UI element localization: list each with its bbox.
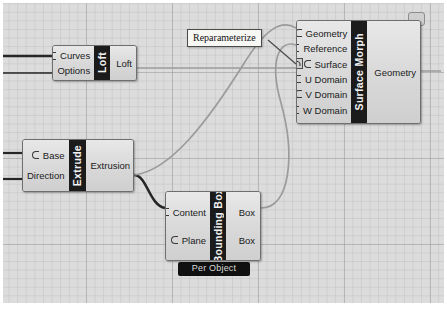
surface-morph-outputs: Geometry <box>367 21 420 123</box>
extrude-output-extrusion[interactable]: Extrusion <box>86 160 135 171</box>
sm-output-geometry[interactable]: Geometry <box>367 67 420 78</box>
port-in-w-domain[interactable] <box>296 106 299 114</box>
extrude-name-tag[interactable]: Extrude <box>69 140 86 191</box>
node-surface-morph[interactable]: Geometry Reference Surface U Domain <box>296 20 421 124</box>
extrude-outputs: Extrusion <box>86 140 135 191</box>
surface-morph-name-tag[interactable]: Surface Morph <box>351 21 367 123</box>
bounding-box-inputs: Content Plane <box>166 192 210 260</box>
bounding-box-outputs: Box Box <box>226 192 260 260</box>
reparameterize-icon[interactable] <box>296 58 303 69</box>
extrude-input-base[interactable]: Base <box>39 150 69 161</box>
grasshopper-canvas[interactable]: Curves Options Loft Loft Base <box>3 3 444 303</box>
port-in-options[interactable] <box>52 67 53 75</box>
sm-input-v-domain[interactable]: V Domain <box>302 89 352 100</box>
port-in-v-domain[interactable] <box>296 90 302 98</box>
screenshot-root: Curves Options Loft Loft Base <box>0 0 447 311</box>
port-in-u-domain[interactable] <box>296 75 301 83</box>
loft-name-tag[interactable]: Loft <box>94 46 110 80</box>
loft-output-loft[interactable]: Loft <box>110 58 136 69</box>
sm-input-reference[interactable]: Reference <box>299 43 351 54</box>
extrude-name-label: Extrude <box>71 145 83 186</box>
bbox-output-box-2[interactable]: Box <box>235 235 260 246</box>
sm-input-u-domain[interactable]: U Domain <box>301 74 351 85</box>
loft-name-label: Loft <box>96 52 108 73</box>
loft-input-options[interactable]: Options <box>53 65 94 76</box>
reparameterize-callout[interactable]: Reparameterize <box>187 29 262 47</box>
bounding-box-name-tag[interactable]: Bounding Box <box>210 192 226 260</box>
port-in-plane[interactable] <box>171 236 178 244</box>
sm-input-geometry[interactable]: Geometry <box>302 28 352 39</box>
port-in-base[interactable] <box>32 151 39 159</box>
bbox-input-content[interactable]: Content <box>169 207 210 218</box>
extrude-input-direction[interactable]: Direction <box>23 170 69 181</box>
port-in-content[interactable] <box>165 208 169 216</box>
loft-input-curves[interactable]: Curves <box>56 50 94 61</box>
loft-inputs: Curves Options <box>53 46 94 80</box>
surface-morph-name-label: Surface Morph <box>353 33 365 110</box>
sm-input-surface[interactable]: Surface <box>311 59 352 70</box>
port-in-surface[interactable] <box>304 60 311 68</box>
node-extrude[interactable]: Base Direction Extrude Extrusion <box>22 139 134 192</box>
bounding-box-runtime-message: Per Object <box>178 262 250 276</box>
surface-morph-inputs: Geometry Reference Surface U Domain <box>297 21 351 123</box>
bbox-output-box-1[interactable]: Box <box>235 207 260 218</box>
port-in-curves[interactable] <box>52 52 56 60</box>
bbox-input-plane[interactable]: Plane <box>178 235 210 246</box>
wire-extrusion-to-geometry <box>134 25 296 175</box>
port-in-direction[interactable] <box>22 171 23 179</box>
sm-input-w-domain[interactable]: W Domain <box>299 105 351 116</box>
port-in-geometry[interactable] <box>296 29 302 37</box>
node-loft[interactable]: Curves Options Loft Loft <box>52 45 137 81</box>
bounding-box-name-label: Bounding Box <box>212 191 224 261</box>
node-bounding-box[interactable]: Content Plane Bounding Box Box Box <box>165 191 261 261</box>
loft-outputs: Loft <box>110 46 136 80</box>
extrude-inputs: Base Direction <box>23 140 69 191</box>
wire-extrusion-to-content <box>134 175 165 208</box>
port-in-reference[interactable] <box>296 44 299 52</box>
arch-icon <box>296 59 301 67</box>
